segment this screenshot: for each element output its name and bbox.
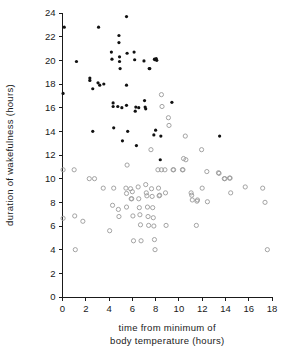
data-point-open [87,177,91,181]
data-point-open [131,214,135,218]
data-point-open [164,223,168,227]
data-point-filled [125,52,128,55]
data-point-open [205,169,209,173]
data-point-open [150,194,154,198]
y-tick-label: 4 [50,244,55,255]
data-point-filled [152,133,155,136]
y-tick-label: 12 [45,149,56,160]
data-point-filled [159,134,162,137]
data-point-open [73,214,77,218]
data-point-open [81,219,85,223]
data-point-open [131,239,135,243]
data-point-open [151,206,155,210]
data-point-filled [126,130,129,133]
data-point-open [137,206,141,210]
data-point-filled [97,26,100,29]
data-point-filled [75,60,78,63]
data-point-filled [125,15,128,18]
data-point-open [149,148,153,152]
data-point-filled [118,55,121,58]
x-tick-label: 6 [130,303,135,314]
x-axis: 024681012141618 [60,297,277,314]
data-point-open [125,163,129,167]
data-point-filled [125,104,128,107]
data-point-filled [148,67,151,70]
data-point-open [124,186,128,190]
y-tick-label: 20 [45,55,56,66]
x-tick-label: 10 [174,303,185,314]
data-point-filled [61,92,64,95]
data-point-filled [135,144,138,147]
x-tick-label: 18 [267,303,278,314]
y-tick-label: 10 [45,173,56,184]
data-point-filled [63,26,66,29]
data-point-filled [133,58,136,61]
data-point-filled [170,101,173,104]
data-point-open [108,229,112,233]
data-point-open [153,248,157,252]
data-point-filled [154,129,157,132]
data-point-open [159,93,163,97]
y-tick-label: 16 [45,102,56,113]
data-point-filled [144,107,147,110]
data-point-open [117,214,121,218]
data-point-open [137,197,141,201]
data-point-open [151,216,155,220]
data-point-filled [142,59,145,62]
data-point-open [145,205,149,209]
y-tick-label: 18 [45,78,56,89]
data-point-open [73,248,77,252]
data-point-open [149,187,153,191]
data-point-open [166,116,170,120]
data-point-open [138,223,142,227]
data-point-open [152,224,156,228]
x-axis-title-line2: body temperature (hours) [110,335,224,346]
data-point-filled [91,130,94,133]
data-point-open [146,214,150,218]
data-point-open [112,186,116,190]
data-point-open [190,198,194,202]
data-point-filled [112,126,115,129]
data-point-filled [119,67,122,70]
data-point-filled [88,79,91,82]
x-tick-label: 8 [153,303,158,314]
data-point-filled [102,82,105,85]
data-point-open [61,168,65,172]
data-point-filled [117,34,120,37]
data-point-open [261,186,265,190]
data-point-open [110,203,114,207]
data-point-filled [137,106,140,109]
data-point-filled [118,60,121,63]
scatter-plot-figure: 024681012141618202224 024681012141618 du… [0,0,290,358]
y-tick-label: 8 [50,197,55,208]
x-tick-label: 16 [243,303,254,314]
data-point-open [147,223,151,227]
data-point-open [101,186,105,190]
data-point-open [145,194,149,198]
data-point-filled [116,105,119,108]
x-tick-label: 4 [106,303,111,314]
data-point-open [160,104,164,108]
y-axis-title: duration of wakefulness (hours) [4,84,15,226]
data-point-open [124,191,128,195]
data-point-filled [134,105,137,108]
data-point-filled [134,110,137,113]
data-point-open [265,248,269,252]
x-tick-label: 14 [220,303,231,314]
data-point-open [194,223,198,227]
data-point-filled [91,87,94,90]
y-axis: 024681012141618202224 [45,7,63,302]
axis-labels-layer: duration of wakefulness (hours)time from… [4,84,224,346]
data-point-filled [121,139,124,142]
data-point-filled [98,84,101,87]
data-point-filled [112,105,115,108]
data-point-filled [218,134,221,137]
data-point-open [61,216,65,220]
data-point-filled [132,50,135,53]
y-tick-label: 2 [50,268,55,279]
data-points-layer [61,15,269,252]
data-point-open [199,148,203,152]
data-point-open [136,185,140,189]
x-tick-label: 12 [197,303,208,314]
data-point-open [243,185,247,189]
